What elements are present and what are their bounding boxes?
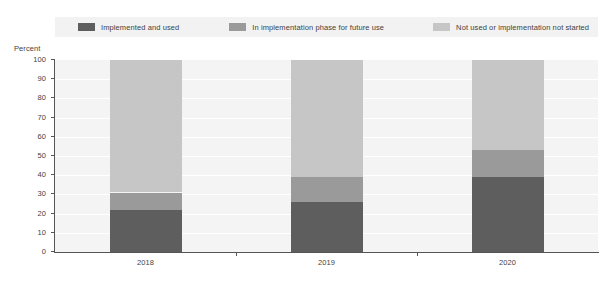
y-axis-tick-label: 10: [37, 228, 46, 238]
y-axis-tick-label: 60: [37, 132, 46, 142]
legend-swatch-icon: [229, 23, 246, 31]
y-axis-tick: 100: [0, 55, 55, 65]
y-axis-tick-mark: [51, 251, 55, 252]
y-axis-tick-label: 20: [37, 209, 46, 219]
bar-2019[interactable]: [291, 60, 363, 252]
bar-2020[interactable]: [472, 60, 544, 252]
y-axis-tick-mark: [51, 136, 55, 137]
legend-label: In implementation phase for future use: [252, 23, 384, 32]
bar-segment[interactable]: [291, 202, 363, 252]
y-axis-tick-label: 70: [37, 113, 46, 123]
y-axis-tick-label: 30: [37, 189, 46, 199]
legend-swatch-icon: [433, 23, 450, 31]
y-axis-tick: 40: [0, 170, 55, 180]
x-axis-tick-mark: [236, 252, 237, 256]
legend-item-not-used[interactable]: Not used or implementation not started: [433, 23, 589, 32]
y-axis-tick: 0: [0, 247, 55, 257]
y-axis-tick: 70: [0, 113, 55, 123]
y-axis-tick-mark: [51, 155, 55, 156]
y-axis-tick-mark: [51, 59, 55, 60]
bar-segment[interactable]: [110, 60, 182, 192]
y-axis-tick-mark: [51, 213, 55, 214]
y-axis-tick-label: 0: [42, 247, 46, 257]
y-axis-tick-label: 80: [37, 93, 46, 103]
y-axis-tick-mark: [51, 193, 55, 194]
bar-segment[interactable]: [291, 177, 363, 202]
legend-item-implemented-and-used[interactable]: Implemented and used: [78, 23, 179, 32]
y-axis-tick-label: 50: [37, 151, 46, 161]
y-axis-tick-mark: [51, 174, 55, 175]
y-axis-tick-label: 40: [37, 170, 46, 180]
y-axis-tick: 30: [0, 189, 55, 199]
chart-legend: Implemented and used In implementation p…: [55, 17, 598, 37]
y-axis-tick-mark: [51, 117, 55, 118]
y-axis-tick-mark: [51, 78, 55, 79]
legend-label: Implemented and used: [101, 23, 179, 32]
bar-2018[interactable]: [110, 60, 182, 252]
legend-label: Not used or implementation not started: [456, 23, 589, 32]
y-axis-tick-mark: [51, 97, 55, 98]
y-axis-tick-label: 100: [33, 55, 46, 65]
y-axis-tick: 50: [0, 151, 55, 161]
bar-segment[interactable]: [110, 193, 182, 210]
bar-segment[interactable]: [291, 60, 363, 177]
x-axis-line: [54, 252, 599, 253]
x-axis-label-2020: 2020: [478, 258, 538, 267]
x-axis-label-2019: 2019: [297, 258, 357, 267]
bar-segment[interactable]: [472, 150, 544, 177]
bar-segment[interactable]: [472, 177, 544, 252]
bar-segment[interactable]: [110, 210, 182, 252]
y-axis-tick: 20: [0, 209, 55, 219]
y-axis-tick: 90: [0, 74, 55, 84]
stacked-bar-chart: Implemented and used In implementation p…: [0, 0, 613, 286]
legend-item-in-implementation-phase[interactable]: In implementation phase for future use: [229, 23, 384, 32]
y-axis-tick: 80: [0, 93, 55, 103]
y-axis-tick-label: 90: [37, 74, 46, 84]
legend-swatch-icon: [78, 23, 95, 31]
y-axis-tick: 10: [0, 228, 55, 238]
bar-segment[interactable]: [472, 60, 544, 150]
x-axis-label-2018: 2018: [116, 258, 176, 267]
y-axis-tick-mark: [51, 232, 55, 233]
y-axis-title: Percent: [14, 44, 41, 53]
x-axis-tick-mark: [417, 252, 418, 256]
y-axis-tick: 60: [0, 132, 55, 142]
